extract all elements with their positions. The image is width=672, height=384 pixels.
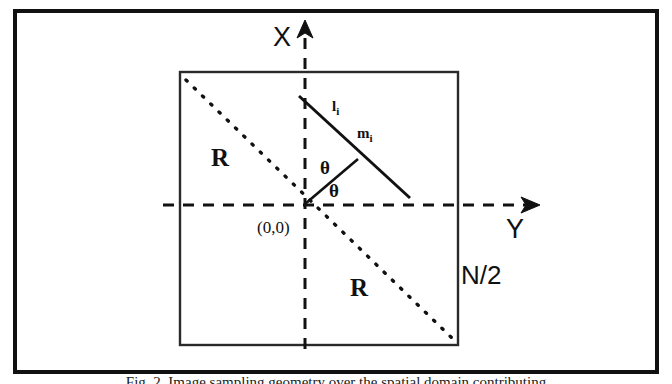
angle-label-upper: θ xyxy=(320,158,330,177)
segment-label-mi: mi xyxy=(357,126,373,144)
region-label-upper-left: R xyxy=(211,145,229,170)
y-axis-label: Y xyxy=(506,216,524,243)
x-axis-arrowhead xyxy=(297,20,313,38)
region-divider-diagonal xyxy=(186,80,452,338)
projection-line-li xyxy=(299,96,410,198)
x-axis-label: X xyxy=(273,24,291,51)
segment-li-subscript: i xyxy=(336,105,339,117)
segment-label-li: li xyxy=(332,99,339,117)
extent-label: N/2 xyxy=(461,262,501,288)
angle-label-lower: θ xyxy=(329,181,339,200)
segment-mi-base: m xyxy=(357,125,370,141)
segment-mi-subscript: i xyxy=(370,132,373,144)
figure-caption: Fig. 2. Image sampling geometry over the… xyxy=(0,374,672,384)
figure-container: X Y (0,0) R R N/2 li mi θ θ Fig. 2. Imag… xyxy=(0,0,672,384)
region-label-lower-right: R xyxy=(350,275,368,300)
origin-label: (0,0) xyxy=(257,219,290,236)
